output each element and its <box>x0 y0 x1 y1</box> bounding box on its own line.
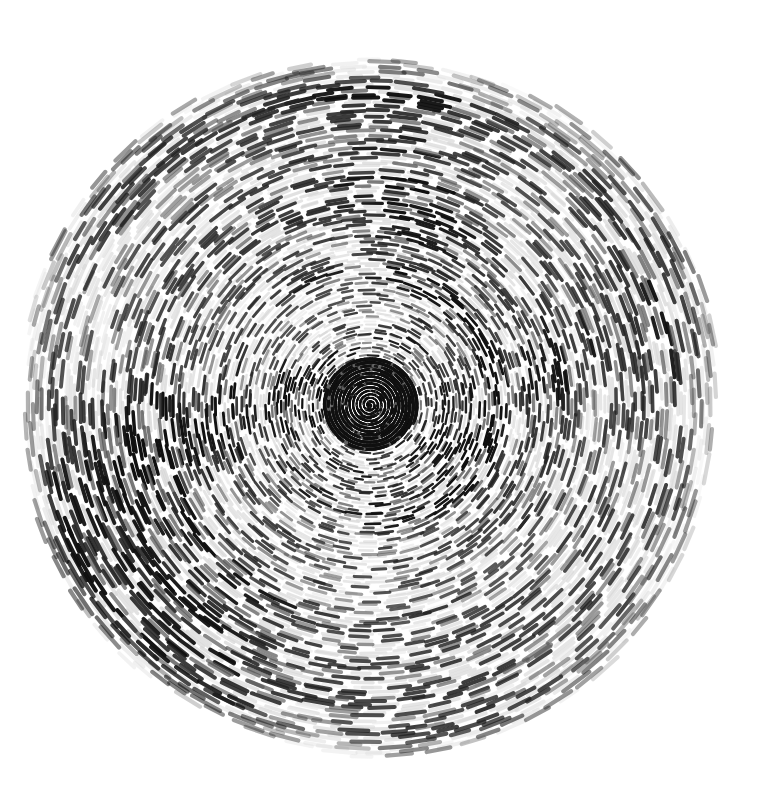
core-spiral-layer <box>325 359 417 450</box>
artwork-canvas: Abstract circular drawing of concentric … <box>0 0 764 798</box>
concentric-dash-disc <box>0 0 764 798</box>
